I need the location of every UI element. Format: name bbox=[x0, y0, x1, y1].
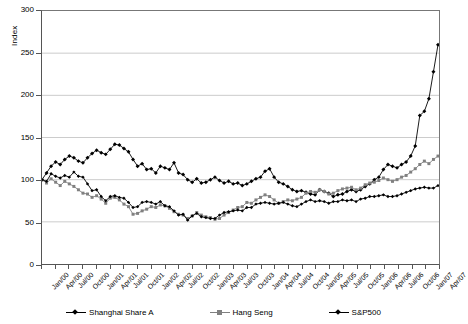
data-point bbox=[136, 212, 139, 215]
x-tick-mark bbox=[206, 265, 207, 269]
data-point bbox=[345, 187, 348, 190]
data-point bbox=[132, 213, 135, 216]
data-point bbox=[154, 206, 157, 209]
data-point bbox=[373, 181, 376, 184]
data-point bbox=[350, 186, 353, 189]
data-point bbox=[405, 174, 408, 177]
data-point bbox=[413, 144, 417, 148]
data-point bbox=[204, 180, 208, 184]
data-point bbox=[363, 197, 366, 200]
x-tick-mark bbox=[302, 265, 303, 269]
data-point bbox=[259, 202, 262, 205]
series-line bbox=[42, 45, 438, 197]
x-tick-mark bbox=[439, 265, 440, 269]
data-point bbox=[259, 196, 262, 199]
data-point bbox=[54, 181, 57, 184]
data-point bbox=[350, 198, 353, 201]
y-tick-label: 0 bbox=[8, 260, 34, 269]
data-point bbox=[240, 184, 244, 188]
data-point bbox=[332, 192, 335, 195]
data-point bbox=[81, 192, 84, 195]
legend-item-3[interactable]: S&P500 bbox=[329, 308, 381, 317]
data-point bbox=[423, 160, 426, 163]
data-point bbox=[382, 193, 385, 196]
data-point bbox=[355, 188, 358, 191]
data-point bbox=[305, 192, 308, 195]
data-point bbox=[323, 200, 326, 203]
data-point bbox=[336, 200, 339, 203]
x-tick-mark bbox=[274, 265, 275, 269]
data-point bbox=[150, 201, 153, 204]
x-tick-mark bbox=[178, 265, 179, 269]
data-point bbox=[341, 187, 344, 190]
x-tick-mark bbox=[343, 265, 344, 269]
data-point bbox=[268, 167, 272, 171]
data-point bbox=[163, 166, 167, 170]
legend-marker-icon bbox=[66, 308, 86, 317]
data-point bbox=[227, 179, 231, 183]
data-point bbox=[250, 202, 253, 205]
data-point bbox=[377, 194, 380, 197]
data-point bbox=[236, 181, 240, 185]
data-point bbox=[245, 201, 248, 204]
data-point bbox=[241, 205, 244, 208]
x-tick-mark bbox=[165, 265, 166, 269]
data-point bbox=[77, 188, 80, 191]
plot-area bbox=[41, 10, 440, 265]
data-point bbox=[300, 196, 303, 199]
data-point bbox=[395, 194, 398, 197]
data-point bbox=[414, 167, 417, 170]
data-point bbox=[390, 164, 394, 168]
data-point bbox=[63, 180, 66, 183]
legend-marker-icon bbox=[210, 308, 230, 317]
data-point bbox=[359, 187, 362, 190]
legend-label: S&P500 bbox=[352, 308, 381, 317]
data-point bbox=[264, 193, 267, 196]
x-tick-mark bbox=[288, 265, 289, 269]
x-tick-mark bbox=[370, 265, 371, 269]
data-point bbox=[59, 176, 62, 179]
x-tick-mark bbox=[398, 265, 399, 269]
y-axis-label: Index bbox=[10, 25, 19, 46]
y-tick-label: 150 bbox=[8, 133, 34, 142]
x-tick-mark bbox=[233, 265, 234, 269]
data-point bbox=[245, 182, 249, 186]
data-point bbox=[286, 202, 289, 205]
data-point bbox=[254, 177, 258, 181]
data-point bbox=[268, 195, 271, 198]
data-point bbox=[345, 189, 349, 193]
legend-item-2[interactable]: Hang Seng bbox=[210, 308, 273, 317]
data-point bbox=[249, 179, 253, 183]
data-point bbox=[313, 200, 316, 203]
data-point bbox=[368, 182, 371, 185]
data-point bbox=[299, 189, 303, 193]
data-point bbox=[345, 199, 348, 202]
data-point bbox=[396, 178, 399, 181]
data-point bbox=[364, 183, 367, 186]
data-lines bbox=[42, 11, 439, 264]
y-tick-label: 250 bbox=[8, 48, 34, 57]
data-point bbox=[273, 198, 276, 201]
data-point bbox=[423, 186, 426, 189]
x-tick-mark bbox=[41, 265, 42, 269]
data-point bbox=[404, 191, 407, 194]
data-point bbox=[409, 171, 412, 174]
x-tick-mark bbox=[315, 265, 316, 269]
data-point bbox=[340, 192, 344, 196]
data-point bbox=[359, 197, 362, 200]
legend-item-1[interactable]: Shanghai Share A bbox=[66, 308, 154, 317]
data-point bbox=[208, 178, 212, 182]
data-point bbox=[150, 205, 153, 208]
data-point bbox=[373, 195, 376, 198]
x-tick-mark bbox=[68, 265, 69, 269]
legend-marker-icon bbox=[329, 308, 349, 317]
data-point bbox=[272, 202, 275, 205]
data-point bbox=[314, 191, 317, 194]
x-tick-mark bbox=[357, 265, 358, 269]
x-tick-mark bbox=[151, 265, 152, 269]
y-tick-label: 200 bbox=[8, 90, 34, 99]
data-point bbox=[432, 186, 435, 189]
x-tick-mark bbox=[261, 265, 262, 269]
data-point bbox=[154, 202, 157, 205]
